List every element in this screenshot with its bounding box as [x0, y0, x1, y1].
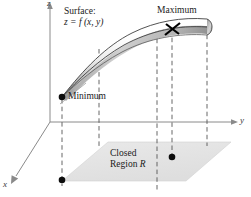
- surface-equation-operator: =: [68, 17, 79, 27]
- surface-equation-rhs: f (x, y): [79, 17, 104, 27]
- minimum-projection-dot: [59, 177, 66, 184]
- surface-z-equals-f-of-x-y: [62, 19, 212, 101]
- z-axis-label: z: [47, 0, 51, 8]
- closed-region-label-prefix: Region: [110, 159, 140, 169]
- y-axis-arrowhead: [231, 119, 238, 125]
- closed-region-plane: [62, 142, 231, 181]
- closed-region-label-name: R: [140, 159, 146, 169]
- maximum-projection-dot: [169, 154, 176, 161]
- surface-caption-line2: z = f (x, y): [64, 17, 103, 28]
- y-axis-label: y: [240, 115, 244, 125]
- minimum-label: Minimum: [68, 91, 106, 102]
- extrema-on-closed-region-figure: Surface: z = f (x, y) Maximum Minimum Cl…: [0, 0, 251, 197]
- closed-region-label: Closed Region R: [110, 148, 146, 169]
- x-axis: [16, 122, 50, 176]
- surface-caption-line1: Surface:: [64, 6, 103, 17]
- x-axis-label: x: [3, 179, 7, 189]
- surface-caption: Surface: z = f (x, y): [64, 6, 103, 27]
- closed-region-label-line1: Closed: [110, 148, 146, 159]
- closed-region-label-line2: Region R: [110, 159, 146, 170]
- x-axis-arrowhead: [11, 175, 18, 184]
- minimum-point-dot: [59, 94, 66, 101]
- maximum-label: Maximum: [157, 5, 197, 16]
